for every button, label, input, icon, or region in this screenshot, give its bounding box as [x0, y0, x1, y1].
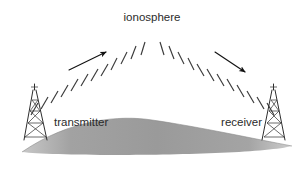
ionosphere-tick [51, 91, 58, 103]
ionosphere-tick [71, 79, 78, 91]
ionosphere-tick [111, 58, 117, 70]
upward-ray-arrow-line [69, 52, 106, 70]
ionosphere-tick [197, 64, 204, 76]
transmitter-label: transmitter [54, 116, 108, 128]
ionosphere-label: ionosphere [124, 11, 181, 23]
diagram-canvas: ionosphere transmitter receiver [0, 0, 305, 169]
ionosphere-tick [81, 74, 88, 86]
ionosphere-tick [169, 46, 174, 59]
ionosphere-tick [61, 85, 68, 97]
skywave-propagation-diagram: ionosphere transmitter receiver [0, 0, 305, 169]
ionosphere-tick [41, 97, 48, 109]
ionosphere-tick [188, 58, 194, 70]
ionosphere-tick [131, 46, 136, 59]
ionosphere-tick [160, 42, 164, 55]
ionosphere-tick [247, 91, 254, 103]
ionosphere-tick [141, 42, 145, 55]
ionosphere-tick [217, 74, 224, 86]
ionosphere-layer [31, 42, 274, 115]
ionosphere-tick [207, 69, 214, 81]
ionosphere-tick [257, 97, 264, 109]
ionosphere-tick [91, 69, 98, 81]
ionosphere-tick [178, 52, 184, 64]
ionosphere-tick [121, 52, 127, 64]
ionosphere-tick [227, 79, 234, 91]
receiver-tower [262, 84, 285, 140]
receiver-label: receiver [221, 116, 262, 128]
ionosphere-tick [101, 64, 108, 76]
downward-ray-arrow-line [215, 52, 245, 72]
upward-ray-arrow [69, 52, 106, 70]
ionosphere-tick [237, 85, 244, 97]
downward-ray-arrow [215, 52, 245, 72]
transmitter-tower [24, 84, 47, 140]
